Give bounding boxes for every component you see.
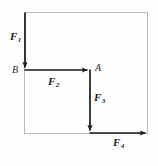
- force-label-f3: F3: [94, 92, 105, 105]
- force-label-f4: F4: [113, 137, 124, 150]
- force-label-f2: F2: [48, 76, 59, 89]
- force-label-f2-symbol: F: [48, 75, 55, 87]
- force-label-f3-symbol: F: [94, 91, 101, 103]
- force-label-f3-subscript: 3: [102, 97, 106, 105]
- force-label-f2-subscript: 2: [56, 81, 60, 89]
- force-label-f1-symbol: F: [10, 30, 17, 42]
- force-label-f1-subscript: 1: [18, 36, 22, 44]
- point-label-b: B: [12, 65, 18, 75]
- vector-arrow-layer: [0, 0, 158, 166]
- force-label-f4-symbol: F: [113, 136, 120, 148]
- point-label-a: A: [95, 63, 101, 73]
- force-diagram-figure: F1 F2 F3 F4 B A: [0, 0, 158, 166]
- force-label-f4-subscript: 4: [121, 142, 125, 150]
- force-label-f1: F1: [10, 31, 21, 44]
